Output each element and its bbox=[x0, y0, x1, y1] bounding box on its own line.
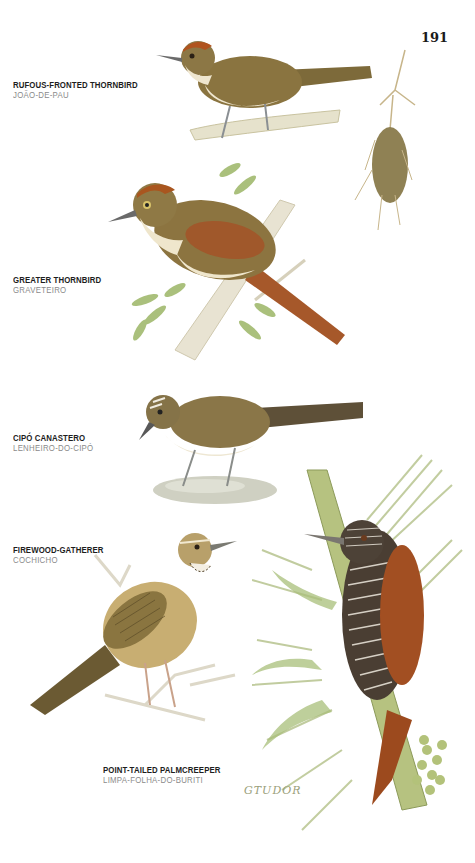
portuguese-name: JOÃO-DE-PAU bbox=[13, 90, 138, 100]
english-name: POINT-TAILED PALMCREEPER bbox=[103, 765, 220, 775]
illustration-greater-thornbird bbox=[105, 160, 365, 365]
english-name: CIPÓ CANASTERO bbox=[13, 433, 93, 443]
species-label-rufous-fronted-thornbird: RUFOUS-FRONTED THORNBIRD JOÃO-DE-PAU bbox=[13, 80, 149, 100]
artist-signature: GTUDOR bbox=[244, 784, 302, 797]
species-label-cipo-canastero: CIPÓ CANASTERO LENHEIRO-DO-CIPÓ bbox=[13, 433, 100, 453]
species-label-greater-thornbird: GREATER THORNBIRD GRAVETEIRO bbox=[13, 275, 109, 295]
illustration-firewood-gatherer bbox=[25, 525, 250, 735]
portuguese-name: GRAVETEIRO bbox=[13, 285, 101, 295]
species-label-point-tailed-palmcreeper: POINT-TAILED PALMCREEPER LIMPA-FOLHA-DO-… bbox=[103, 765, 231, 785]
english-name: GREATER THORNBIRD bbox=[13, 275, 101, 285]
portuguese-name: LENHEIRO-DO-CIPÓ bbox=[13, 443, 93, 453]
portuguese-name: LIMPA-FOLHA-DO-BURITI bbox=[103, 775, 220, 785]
english-name: RUFOUS-FRONTED THORNBIRD bbox=[13, 80, 138, 90]
